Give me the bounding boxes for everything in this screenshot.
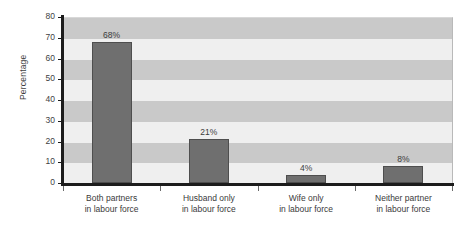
x-axis-tick-mark — [258, 186, 259, 191]
y-axis-tick-label: 20 — [33, 137, 55, 146]
y-axis-tick-mark — [58, 79, 62, 80]
y-axis-tick-mark — [58, 142, 62, 143]
y-axis-tick-label: 60 — [33, 54, 55, 63]
x-axis-tick-mark — [63, 186, 64, 191]
y-axis-tick-mark — [58, 162, 62, 163]
bar — [383, 166, 423, 183]
y-axis-tick-label: 50 — [33, 74, 55, 83]
bar-value-label: 8% — [373, 154, 433, 164]
x-axis-category-label: Husband onlyin labour force — [157, 193, 261, 215]
x-axis-category-label-line: Neither partner — [351, 193, 455, 204]
x-axis-category-label: Both partnersin labour force — [60, 193, 164, 215]
bar-value-label: 21% — [179, 127, 239, 137]
x-axis-category-label-line: in labour force — [60, 204, 164, 215]
x-axis-tick-mark — [452, 186, 453, 191]
x-axis-category-label: Wife onlyin labour force — [254, 193, 358, 215]
x-axis-category-label: Neither partnerin labour force — [351, 193, 455, 215]
y-axis-tick-mark — [58, 183, 62, 184]
y-axis-tick-label: 30 — [33, 116, 55, 125]
bar — [92, 42, 132, 183]
y-axis-tick-mark — [58, 59, 62, 60]
y-axis-tick-label: 10 — [33, 157, 55, 166]
y-axis-tick-mark — [58, 17, 62, 18]
y-axis-tick-label: 40 — [33, 95, 55, 104]
bar — [189, 139, 229, 183]
y-axis-tick-mark — [58, 100, 62, 101]
y-axis-tick-mark — [58, 121, 62, 122]
x-axis-category-label-line: in labour force — [157, 204, 261, 215]
bar-value-label: 4% — [276, 163, 336, 173]
bar — [286, 175, 326, 183]
bar-value-label: 68% — [82, 30, 142, 40]
x-axis-tick-mark — [355, 186, 356, 191]
y-axis-tick-mark — [58, 38, 62, 39]
bar-chart: Percentage 01020304050607080 68%21%4%8% … — [0, 0, 475, 226]
x-axis-category-label-line: in labour force — [254, 204, 358, 215]
x-axis-category-label-line: Both partners — [60, 193, 164, 204]
x-axis-category-label-line: in labour force — [351, 204, 455, 215]
y-axis-tick-label: 70 — [33, 33, 55, 42]
y-axis-tick-label: 80 — [33, 12, 55, 21]
x-axis-category-label-line: Husband only — [157, 193, 261, 204]
x-axis-category-label-line: Wife only — [254, 193, 358, 204]
x-axis-tick-mark — [160, 186, 161, 191]
y-axis-tick-label: 0 — [33, 178, 55, 187]
